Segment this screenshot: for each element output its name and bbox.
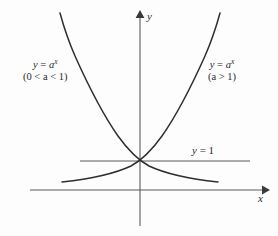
curve-label-growth: y = ax (a > 1) (208, 59, 236, 84)
plot-canvas (0, 0, 278, 236)
growth-eq-equals: = (214, 59, 225, 70)
y1-equals: = (197, 144, 209, 156)
x-axis-label: x (258, 192, 263, 205)
curve-label-decay: y = ax (0 < a < 1) (23, 59, 68, 84)
exponential-functions-figure: y x y = ax (0 < a < 1) y = ax (a > 1) y … (0, 0, 278, 236)
curve-label-decay-condition: (0 < a < 1) (23, 71, 68, 83)
curve-label-decay-equation: y = ax (23, 59, 68, 71)
decay-eq-exponent: x (54, 57, 57, 66)
curve-label-growth-equation: y = ax (208, 59, 236, 71)
y-axis-label: y (147, 10, 152, 23)
curve-label-growth-condition: (a > 1) (208, 71, 236, 83)
reference-line-label: y = 1 (192, 144, 214, 157)
growth-eq-exponent: x (231, 57, 234, 66)
y-axis-arrowhead-icon (136, 10, 145, 18)
decay-eq-equals: = (38, 59, 49, 70)
y1-value: 1 (209, 144, 215, 156)
x-axis-arrowhead-icon (262, 186, 270, 195)
